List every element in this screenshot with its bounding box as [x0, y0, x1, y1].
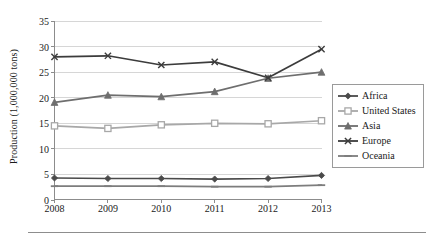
legend-item-asia[interactable]: Asia: [337, 118, 419, 133]
y-axis-tick-labels: 05101520253035: [0, 21, 54, 200]
x-tick-label: 2013: [312, 203, 332, 214]
y-tick-label: 5: [8, 169, 54, 180]
y-tick-label: 25: [8, 67, 54, 78]
chart-figure: Production (1,000,000 tons) 051015202530…: [0, 0, 436, 240]
y-tick-label: 10: [8, 143, 54, 154]
legend-item-europe[interactable]: Europe: [337, 133, 419, 148]
legend-marker-diamond-icon: [337, 90, 359, 102]
legend-item-united-states[interactable]: United States: [337, 103, 419, 118]
y-tick-label: 35: [8, 16, 54, 27]
legend-label: Oceania: [362, 150, 395, 162]
legend-item-oceania[interactable]: Oceania: [337, 148, 419, 163]
legend-item-africa[interactable]: Africa: [337, 88, 419, 103]
series-oceania: [51, 185, 325, 187]
legend-marker-line-icon: [337, 150, 359, 162]
y-tick-label: 20: [8, 92, 54, 103]
x-axis-tick-labels: 200820092010201120122013: [54, 203, 322, 219]
plot-area: [54, 21, 322, 200]
series-africa: [51, 172, 324, 182]
legend-label: United States: [362, 105, 416, 117]
bottom-divider: [28, 232, 426, 233]
x-tick-label: 2008: [45, 203, 65, 214]
legend-label: Asia: [362, 120, 380, 132]
legend-label: Europe: [362, 135, 391, 147]
legend-marker-square-icon: [337, 105, 359, 117]
x-tick-label: 2010: [151, 203, 171, 214]
axis-lines: [51, 21, 323, 203]
x-tick-label: 2011: [205, 203, 225, 214]
x-tick-label: 2009: [98, 203, 118, 214]
y-tick-label: 15: [8, 118, 54, 129]
y-tick-label: 30: [8, 41, 54, 52]
chart-legend: AfricaUnited StatesAsiaEuropeOceania: [332, 84, 424, 168]
x-tick-label: 2012: [258, 203, 278, 214]
chart-canvas: [54, 21, 322, 200]
legend-marker-triangle-icon: [337, 120, 359, 132]
series-asia: [51, 69, 325, 106]
legend-marker-cross-icon: [337, 135, 359, 147]
series-layer: [51, 46, 325, 187]
series-united-states: [51, 118, 324, 132]
legend-label: Africa: [362, 90, 388, 102]
